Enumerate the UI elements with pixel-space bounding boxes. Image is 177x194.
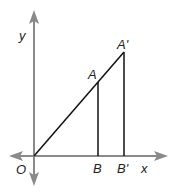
x-axis — [9, 151, 168, 161]
point-a-prime-label: A' — [116, 37, 129, 52]
y-axis-label: y — [18, 28, 27, 43]
dilation-diagram: y x O A A' B B' — [0, 0, 177, 194]
point-b-label: B — [93, 161, 102, 176]
origin-label: O — [16, 162, 26, 177]
point-b-prime-label: B' — [117, 161, 129, 176]
point-a-label: A — [87, 67, 97, 82]
y-axis — [29, 10, 39, 186]
x-axis-label: x — [140, 161, 148, 176]
ray-o-to-a-prime — [34, 52, 124, 156]
